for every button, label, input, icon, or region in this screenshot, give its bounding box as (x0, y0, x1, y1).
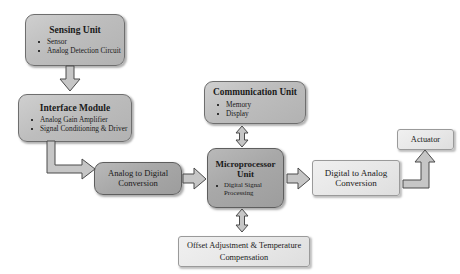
list-item: Analog Gain Amplifier (30, 115, 127, 124)
node-title: Sensing Unit (30, 25, 120, 36)
list-item: Analog Detection Circuit (37, 46, 120, 55)
node-bullet-list: Analog Gain Amplifier Signal Conditionin… (23, 115, 127, 133)
arrow-bidirectional-vertical-icon-communication-to-microprocessor (235, 126, 249, 148)
block-diagram-canvas: Sensing Unit Sensor Analog Detection Cir… (0, 0, 460, 274)
node-microprocessor-unit[interactable]: Microprocessor Unit Digital Signal Proce… (207, 148, 284, 208)
node-analog-to-digital-conversion[interactable]: Analog to Digital Conversion (94, 162, 182, 195)
arrow-bidirectional-vertical-icon-microprocessor-to-offset (235, 209, 249, 233)
node-communication-unit[interactable]: Communication Unit Memory Display (204, 81, 306, 124)
arrow-right-icon-microprocessor-to-dac (287, 168, 311, 190)
arrow-elbow-down-right-icon-interface-to-adc (47, 141, 97, 181)
node-interface-module[interactable]: Interface Module Analog Gain Amplifier S… (18, 94, 132, 142)
node-title: Analog to Digital Conversion (98, 169, 178, 188)
node-bullet-list: Memory Display (209, 100, 301, 118)
node-title: Communication Unit (209, 87, 301, 97)
node-offset-adjustment-temperature-compensation[interactable]: Offset Adjustment & Temperature Compensa… (178, 236, 310, 267)
list-item: Signal Conditioning & Driver (30, 124, 127, 133)
node-title: Microprocessor Unit (210, 159, 281, 179)
list-item: Display (216, 109, 301, 118)
node-title: Offset Adjustment & Temperature Compensa… (182, 240, 306, 263)
node-bullet-list: Digital Signal Processing (210, 181, 281, 197)
arrow-down-icon-sensing-to-interface (58, 66, 82, 92)
list-item: Memory (216, 100, 301, 109)
node-actuator[interactable]: Actuator (397, 129, 454, 150)
node-title: Actuator (400, 135, 451, 144)
arrow-elbow-right-up-icon-dac-to-actuator (403, 150, 437, 190)
list-item: Sensor (37, 37, 120, 46)
node-sensing-unit[interactable]: Sensing Unit Sensor Analog Detection Cir… (25, 14, 125, 66)
node-title: Digital to Analog Conversion (316, 168, 396, 188)
arrow-right-icon-adc-to-microprocessor (183, 168, 207, 190)
node-digital-to-analog-conversion[interactable]: Digital to Analog Conversion (312, 160, 400, 196)
node-title: Interface Module (23, 103, 127, 114)
list-item: Digital Signal Processing (215, 181, 281, 197)
node-bullet-list: Sensor Analog Detection Circuit (30, 37, 120, 55)
